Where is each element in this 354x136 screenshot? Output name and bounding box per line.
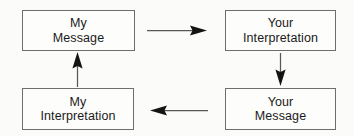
node-my-message-line-2: Message — [53, 31, 104, 46]
node-your-interpretation-line-2: Interpretation — [243, 31, 318, 46]
node-my-message-line-1: My — [70, 16, 87, 31]
arrow-left-icon — [150, 105, 208, 115]
arrow-up-icon — [72, 52, 82, 87]
node-my-interpretation: My Interpretation — [22, 88, 134, 130]
node-your-interpretation: Your Interpretation — [225, 10, 336, 51]
arrow-down-icon — [275, 53, 285, 86]
node-your-interpretation-line-1: Your — [268, 16, 294, 31]
node-my-interpretation-line-1: My — [70, 95, 87, 110]
node-your-message-line-2: Message — [255, 109, 306, 124]
communication-cycle-diagram: My Message Your Interpretation My Interp… — [0, 0, 354, 136]
arrow-right-icon — [147, 25, 207, 35]
node-your-message: Your Message — [225, 88, 336, 130]
node-my-interpretation-line-2: Interpretation — [40, 109, 115, 124]
node-your-message-line-1: Your — [268, 95, 294, 110]
node-my-message: My Message — [22, 10, 135, 51]
